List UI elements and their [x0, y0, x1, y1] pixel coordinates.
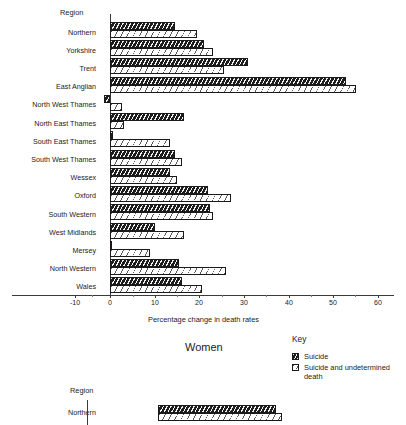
bar-mersey-suicide: [110, 241, 112, 249]
x-tick-60: [378, 295, 379, 298]
bar-north-east-thames-undetermined: [110, 121, 124, 129]
x-tick-label-30: 30: [231, 299, 257, 306]
legend-swatch-suicide-icon: [292, 353, 299, 360]
bar-south-west-thames-undetermined: [110, 158, 182, 166]
bar-oxford-suicide: [110, 186, 208, 194]
bar-yorkshire-suicide: [110, 40, 204, 48]
bar-north-western-suicide: [110, 259, 179, 267]
legend-item-undetermined: Suicide and undetermined death: [292, 363, 404, 381]
bar-women-northern-undetermined: [158, 413, 282, 421]
x-tick-label-0: 0: [97, 299, 123, 306]
x-tick-label-20: 20: [186, 299, 212, 306]
y-axis-line-women: [87, 400, 88, 425]
legend-title: Key: [292, 334, 306, 344]
bar-oxford-undetermined: [110, 194, 231, 202]
x-minor-tick-5: [133, 295, 134, 297]
bar-northern-suicide: [110, 22, 175, 30]
x-tick-30: [244, 295, 245, 298]
legend-label-undetermined: Suicide and undetermined death: [304, 363, 396, 381]
x-minor-tick-35: [266, 295, 267, 297]
bar-south-western-undetermined: [110, 212, 213, 220]
x-tick-20: [199, 295, 200, 298]
bar-trent-suicide: [110, 58, 248, 66]
bar-trent-undetermined: [110, 66, 224, 74]
category-label-women-northern: Northern: [68, 409, 96, 417]
bar-south-western-suicide: [110, 204, 210, 212]
legend-swatch-undetermined-icon: [292, 364, 299, 371]
bar-west-midlands-suicide: [110, 223, 155, 231]
bar-wessex-suicide: [110, 168, 170, 176]
bar-wessex-undetermined: [110, 176, 177, 184]
x-tick-40: [289, 295, 290, 298]
x-minor-tick-15: [177, 295, 178, 297]
x-tick-0: [110, 295, 111, 298]
figure-root: Region Northern Yorkshire Trent East Ang…: [0, 0, 406, 425]
bar-south-east-thames-suicide: [110, 131, 113, 139]
bar-north-west-thames-undetermined: [110, 103, 122, 111]
x-minor-tick-25: [222, 295, 223, 297]
bar-mersey-undetermined: [110, 249, 150, 257]
bar-yorkshire-undetermined: [110, 48, 213, 56]
bar-east-anglian-suicide: [110, 77, 346, 85]
x-minor-tick-45: [311, 295, 312, 297]
legend-item-suicide: Suicide: [292, 352, 404, 361]
bar-north-western-undetermined: [110, 267, 226, 275]
x-minor-tick-55: [355, 295, 356, 297]
bar-north-east-thames-suicide: [110, 113, 184, 121]
bar-wales-suicide: [110, 277, 182, 285]
bar-east-anglian-undetermined: [110, 85, 356, 93]
bar-north-west-thames-suicide: [104, 95, 110, 103]
x-tick-50: [333, 295, 334, 298]
x-tick-label-60: 60: [365, 299, 391, 306]
x-tick-label-10: 10: [142, 299, 168, 306]
panel-title-women: Women: [185, 341, 223, 353]
bar-south-west-thames-suicide: [110, 150, 175, 158]
bar-south-east-thames-undetermined: [110, 139, 170, 147]
x-tick-10: [155, 295, 156, 298]
legend-label-suicide: Suicide: [304, 352, 328, 361]
bar-west-midlands-undetermined: [110, 231, 184, 239]
category-labels-women: Northern: [0, 0, 96, 425]
x-tick-label-50: 50: [320, 299, 346, 306]
bar-wales-undetermined: [110, 285, 202, 293]
bar-northern-undetermined: [110, 30, 197, 38]
x-tick-label-40: 40: [276, 299, 302, 306]
x-axis-title-men: Percentage change in death rates: [148, 315, 259, 324]
bar-women-northern-suicide: [158, 405, 276, 413]
